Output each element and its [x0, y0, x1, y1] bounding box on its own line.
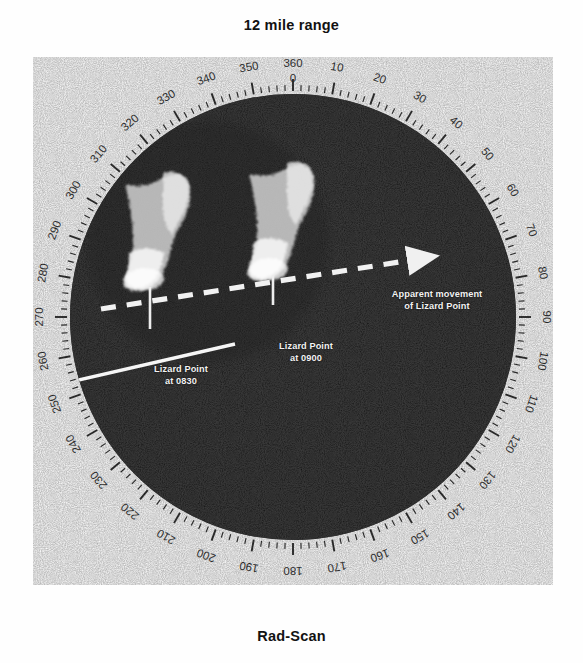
bearing-minor-tick: [432, 134, 436, 139]
bearing-minor-tick: [229, 94, 231, 100]
bearing-minor-tick: [199, 523, 201, 528]
bearing-major-tick: [212, 93, 216, 104]
bearing-minor-tick: [324, 541, 325, 547]
bearing-label-310: 310: [88, 143, 110, 165]
bearing-minor-tick: [221, 96, 223, 102]
bearing-minor-tick: [471, 174, 476, 178]
bearing-minor-tick: [170, 509, 173, 514]
bearing-minor-tick: [68, 261, 74, 262]
bearing-major-tick: [140, 135, 148, 144]
bearing-minor-tick: [78, 230, 84, 232]
bearing-minor-tick: [493, 208, 498, 211]
radar-scope-svg: 3601020304050607080901001101201301401501…: [33, 57, 553, 605]
bearing-major-tick: [489, 430, 499, 436]
annotation-lp2-line1: Lizard Point: [246, 341, 366, 353]
bearing-minor-tick: [163, 504, 166, 509]
bearing-minor-tick: [78, 402, 84, 404]
bearing-major-tick: [59, 356, 71, 358]
bearing-minor-tick: [150, 134, 154, 139]
bearing-minor-tick: [512, 372, 518, 373]
bearing-minor-tick: [245, 90, 246, 96]
bearing-major-tick: [466, 462, 475, 470]
bearing-minor-tick: [476, 181, 481, 185]
bearing-minor-tick: [96, 437, 101, 440]
bearing-minor-tick: [191, 520, 194, 525]
bearing-minor-tick: [63, 285, 69, 286]
bearing-major-tick: [505, 236, 516, 240]
bearing-label-zero: 0: [290, 72, 296, 84]
bearing-minor-tick: [499, 223, 504, 225]
bearing-label-320: 320: [119, 112, 141, 134]
bearing-minor-tick: [170, 120, 173, 125]
bearing-minor-tick: [88, 423, 93, 426]
bearing-label-270: 270: [33, 307, 45, 326]
bearing-minor-tick: [355, 534, 357, 540]
bearing-minor-tick: [444, 485, 448, 489]
bearing-minor-tick: [480, 187, 485, 190]
bearing-minor-tick: [101, 443, 106, 446]
bearing-label-120: 120: [503, 433, 523, 456]
bearing-label-190: 190: [238, 560, 259, 575]
bearing-minor-tick: [517, 285, 523, 286]
bearing-minor-tick: [426, 129, 430, 134]
bearing-major-tick: [438, 135, 446, 144]
bearing-minor-tick: [317, 86, 318, 92]
bearing-major-tick: [406, 513, 412, 523]
bearing-minor-tick: [62, 341, 68, 342]
bearing-major-tick: [87, 198, 97, 204]
bearing-label-100: 100: [536, 351, 551, 372]
bearing-label-30: 30: [411, 89, 428, 106]
bearing-minor-tick: [480, 443, 485, 446]
annotation-lp1-line2: at 0830: [121, 376, 241, 388]
bearing-minor-tick: [476, 450, 481, 454]
annotation-lp1-line1: Lizard Point: [121, 364, 241, 376]
bearing-major-tick: [174, 513, 180, 523]
radar-display[interactable]: 3601020304050607080901001101201301401501…: [33, 57, 553, 605]
bearing-label-330: 330: [155, 87, 178, 107]
bearing-minor-tick: [105, 181, 110, 185]
bearing-minor-tick: [221, 532, 223, 538]
bearing-major-tick: [59, 276, 71, 278]
bearing-label-70: 70: [524, 222, 540, 238]
bearing-minor-tick: [413, 509, 416, 514]
bearing-label-180: 180: [283, 565, 302, 577]
bearing-minor-tick: [81, 409, 86, 411]
bearing-major-tick: [516, 356, 528, 358]
bearing-label-170: 170: [327, 560, 348, 575]
bearing-minor-tick: [340, 90, 341, 96]
bearing-major-tick: [212, 529, 216, 540]
bearing-major-tick: [69, 236, 80, 240]
bearing-minor-tick: [518, 341, 524, 342]
bearing-minor-tick: [419, 125, 422, 130]
bearing-minor-tick: [126, 156, 130, 160]
bearing-label-240: 240: [63, 433, 83, 456]
bearing-minor-tick: [84, 416, 89, 419]
annotation-lizard-point-0830: Lizard Point at 0830: [121, 364, 241, 387]
bearing-minor-tick: [72, 387, 78, 389]
bearing-major-tick: [516, 276, 528, 278]
bearing-minor-tick: [499, 409, 504, 411]
bearing-minor-tick: [419, 504, 422, 509]
bearing-minor-tick: [110, 174, 115, 178]
bearing-minor-tick: [385, 105, 387, 110]
bearing-minor-tick: [72, 245, 78, 247]
bearing-label-110: 110: [523, 393, 541, 414]
bearing-minor-tick: [508, 245, 514, 247]
bearing-major-tick: [111, 462, 120, 470]
bearing-minor-tick: [66, 364, 72, 365]
bearing-label-280: 280: [35, 262, 50, 283]
bearing-label-350: 350: [238, 59, 259, 74]
bearing-label-80: 80: [536, 266, 550, 281]
bearing-label-20: 20: [372, 70, 388, 86]
bearing-minor-tick: [157, 129, 161, 134]
bearing-major-tick: [174, 111, 180, 121]
bearing-minor-tick: [450, 480, 454, 484]
bearing-minor-tick: [471, 456, 476, 460]
bearing-label-220: 220: [119, 501, 141, 523]
bearing-minor-tick: [508, 387, 514, 389]
bearing-minor-tick: [392, 108, 395, 113]
bearing-minor-tick: [510, 253, 516, 255]
bearing-label-250: 250: [45, 393, 63, 415]
bearing-minor-tick: [348, 536, 349, 542]
bearing-minor-tick: [110, 456, 115, 460]
